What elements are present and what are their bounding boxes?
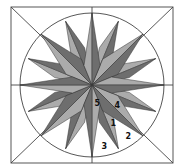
mariners-compass-diagram: 5 4 1 2 3 xyxy=(0,0,179,166)
piece-label-2: 2 xyxy=(126,132,132,141)
piece-label-5: 5 xyxy=(95,99,101,108)
piece-label-3: 3 xyxy=(102,142,108,151)
piece-label-1: 1 xyxy=(111,119,117,128)
piece-label-4: 4 xyxy=(115,101,121,110)
compass-points xyxy=(20,13,164,157)
